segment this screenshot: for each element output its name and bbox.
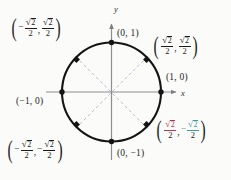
radical-group: √ 2 (180, 36, 190, 45)
y-fraction: √ 2 2 (187, 120, 200, 140)
x-fraction: √ 2 2 (24, 18, 37, 38)
point-quadrant4 (143, 121, 150, 128)
radicand: 2 (48, 18, 53, 27)
y-denominator: 2 (183, 47, 187, 56)
x-denominator: 2 (168, 131, 172, 140)
point-quadrant1 (143, 56, 150, 63)
y-sign: − (37, 145, 43, 155)
radicand: 2 (167, 36, 172, 45)
y-numerator: √ 2 (43, 140, 55, 150)
radical-group: √ 2 (188, 120, 198, 129)
coord-comma: , (37, 26, 41, 36)
x-denominator: 2 (29, 29, 33, 38)
x-numerator: √ 2 (21, 140, 33, 150)
y-numerator: √ 2 (42, 18, 54, 28)
x-fraction: √ 2 2 (20, 140, 33, 160)
y-denominator: 2 (191, 131, 195, 140)
radical-group: √ 2 (43, 18, 53, 27)
radical-group: √ 2 (165, 120, 175, 129)
x-axis-label: x (181, 89, 185, 98)
coord-label-quadrant3: ( − √ 2 2 , − √ 2 (6, 140, 64, 161)
coord-expression: ( √ 2 2 , √ 2 (152, 36, 199, 56)
y-numerator: √ 2 (179, 36, 191, 46)
point-label-left: (−1, 0) (16, 97, 43, 107)
y-fraction: √ 2 2 (43, 140, 56, 160)
coord-comma: , (174, 44, 178, 54)
point-label-right: (1, 0) (166, 73, 188, 83)
radicand: 2 (27, 140, 32, 149)
radical-group: √ 2 (22, 140, 32, 149)
radical-group: √ 2 (44, 140, 54, 149)
coord-expression: ( √ 2 2 , − √ 2 (155, 120, 208, 140)
x-numerator: √ 2 (161, 36, 173, 46)
x-denominator: 2 (165, 47, 169, 56)
y-axis-label: y (114, 5, 118, 14)
x-numerator: √ 2 (25, 18, 37, 28)
y-denominator: 2 (46, 29, 50, 38)
point-label-top: (0, 1) (117, 29, 139, 39)
radical-group: √ 2 (26, 18, 36, 27)
y-fraction: √ 2 2 (178, 36, 191, 56)
x-fraction: √ 2 2 (161, 36, 174, 56)
radicand: 2 (49, 140, 54, 149)
x-fraction: √ 2 2 (164, 120, 177, 140)
point-bottom (109, 139, 114, 144)
point-top (109, 40, 114, 45)
radicand: 2 (170, 120, 175, 129)
coord-label-quadrant1: ( √ 2 2 , √ 2 (152, 36, 199, 57)
radicand: 2 (185, 36, 190, 45)
point-quadrant3 (73, 121, 80, 128)
radical-group: √ 2 (162, 36, 172, 45)
x-denominator: 2 (25, 151, 29, 160)
x-numerator: √ 2 (164, 120, 176, 130)
point-left (59, 89, 64, 94)
y-denominator: 2 (47, 151, 51, 160)
y-numerator: √ 2 (187, 120, 199, 130)
point-label-bottom: (0, −1) (117, 149, 144, 159)
coord-label-quadrant4: ( √ 2 2 , − √ 2 (155, 120, 208, 141)
x-sign: − (18, 23, 24, 33)
unit-circle-figure: x y (0, 1) (1, 0) (−1, 0) (0, −1) ( − √ … (0, 0, 231, 180)
y-sign: − (181, 125, 187, 135)
coord-expression: ( − √ 2 2 , − √ 2 (6, 140, 64, 160)
radicand: 2 (31, 18, 36, 27)
coord-expression: ( − √ 2 2 , √ 2 (10, 18, 63, 38)
point-right (158, 89, 163, 94)
y-fraction: √ 2 2 (42, 18, 55, 38)
x-sign: − (14, 145, 20, 155)
radicand: 2 (193, 120, 198, 129)
point-quadrant2 (73, 56, 80, 63)
coord-label-quadrant2: ( − √ 2 2 , √ 2 (10, 18, 63, 39)
